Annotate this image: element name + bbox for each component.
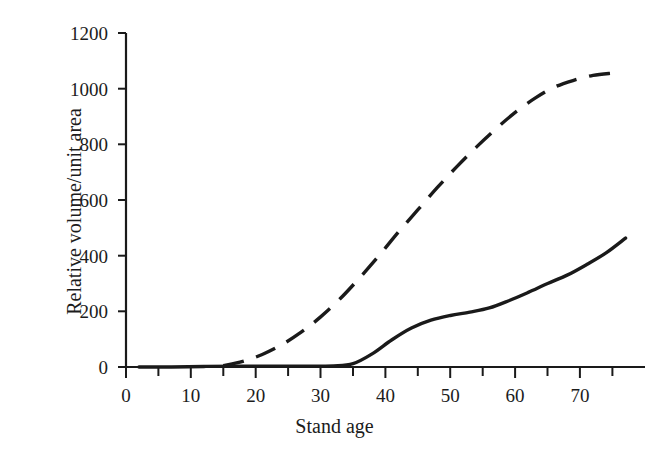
x-tick-label-40: 40: [376, 386, 395, 405]
x-axis-ticks: [126, 367, 612, 378]
x-tick-label-70: 70: [570, 386, 589, 405]
y-tick-label-1200: 1200: [44, 24, 108, 43]
plot-area: [0, 0, 669, 449]
x-tick-label-50: 50: [441, 386, 460, 405]
x-axis-title: Stand age: [0, 415, 669, 438]
x-tick-label-0: 0: [121, 386, 131, 405]
series-solid-curve: [139, 238, 626, 367]
y-axis-title: Relative volume/unit area: [63, 62, 86, 362]
x-tick-label-10: 10: [181, 386, 200, 405]
series-dashed-curve: [223, 73, 612, 366]
x-tick-label-20: 20: [246, 386, 265, 405]
y-axis-ticks: [118, 33, 126, 367]
chart-figure: 0 200 400 600 800 1000 1200 0 10 20 30 4…: [0, 0, 669, 449]
x-tick-label-30: 30: [311, 386, 330, 405]
x-tick-label-60: 60: [506, 386, 525, 405]
